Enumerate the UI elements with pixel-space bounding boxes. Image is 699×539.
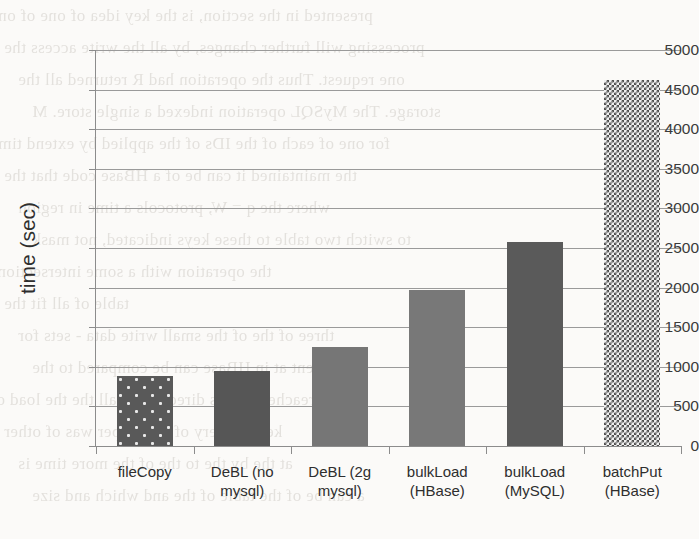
bar-slot — [389, 50, 487, 446]
x-axis-label: DeBL (2gmysql) — [291, 462, 389, 500]
x-tick-mark — [486, 447, 487, 454]
y-tick-label: 500 — [621, 397, 699, 415]
x-tick-mark — [681, 447, 682, 454]
x-axis-label-line: fileCopy — [98, 462, 192, 481]
bar-slot — [194, 50, 292, 446]
bar[interactable] — [507, 242, 563, 446]
bar-series — [96, 50, 681, 446]
y-tick-mark — [89, 129, 95, 130]
x-axis-label-line: mysql) — [293, 481, 387, 500]
y-tick-mark — [89, 406, 95, 407]
x-axis-label-line: batchPut — [586, 462, 680, 481]
x-axis-labels: fileCopyDeBL (nomysql)DeBL (2gmysql)bulk… — [96, 462, 681, 500]
x-tick-mark — [389, 447, 390, 454]
y-tick-label: 0 — [621, 437, 699, 455]
bar-slot — [291, 50, 389, 446]
bar-slot — [96, 50, 194, 446]
x-axis-label: bulkLoad(HBase) — [389, 462, 487, 500]
x-axis-label: DeBL (nomysql) — [194, 462, 292, 500]
y-tick-label: 3000 — [621, 199, 699, 217]
y-tick-mark — [89, 446, 95, 447]
y-tick-mark — [89, 90, 95, 91]
x-axis-label-line: DeBL (2g — [293, 462, 387, 481]
y-tick-mark — [89, 327, 95, 328]
x-axis-label: fileCopy — [96, 462, 194, 500]
x-axis-label-line: (MySQL) — [488, 481, 582, 500]
x-tick-mark — [194, 447, 195, 454]
x-tick-mark — [584, 447, 585, 454]
y-tick-label: 5000 — [621, 41, 699, 59]
x-axis-label-line: bulkLoad — [391, 462, 485, 481]
y-tick-mark — [89, 169, 95, 170]
x-axis-label-line: (HBase) — [586, 481, 680, 500]
y-tick-label: 3500 — [621, 160, 699, 178]
x-axis-label-line: (HBase) — [391, 481, 485, 500]
bar[interactable] — [312, 347, 368, 446]
y-tick-label: 1500 — [621, 318, 699, 336]
x-axis-label: batchPut(HBase) — [584, 462, 682, 500]
bar-slot — [486, 50, 584, 446]
bar[interactable] — [214, 371, 270, 446]
y-tick-label: 4500 — [621, 81, 699, 99]
bar[interactable] — [409, 290, 465, 446]
x-tick-mark — [291, 447, 292, 454]
y-tick-mark — [89, 208, 95, 209]
bar-chart: time (sec) fileCopyDeBL (nomysql)DeBL (2… — [0, 0, 699, 539]
y-tick-mark — [89, 288, 95, 289]
x-axis-label: bulkLoad(MySQL) — [486, 462, 584, 500]
y-tick-mark — [89, 50, 95, 51]
y-tick-mark — [89, 367, 95, 368]
x-axis-label-line: bulkLoad — [488, 462, 582, 481]
y-tick-label: 2000 — [621, 279, 699, 297]
bar[interactable] — [117, 376, 173, 446]
y-tick-label: 2500 — [621, 239, 699, 257]
y-axis-title-label: time (sec) — [16, 202, 40, 294]
x-tick-mark — [96, 447, 97, 454]
y-axis-title: time (sec) — [13, 50, 43, 446]
x-axis-label-line: mysql) — [196, 481, 290, 500]
chart-page: presented in the section, is the key ide… — [0, 0, 699, 539]
y-tick-label: 1000 — [621, 358, 699, 376]
y-tick-label: 4000 — [621, 120, 699, 138]
x-axis-label-line: DeBL (no — [196, 462, 290, 481]
y-tick-mark — [89, 248, 95, 249]
